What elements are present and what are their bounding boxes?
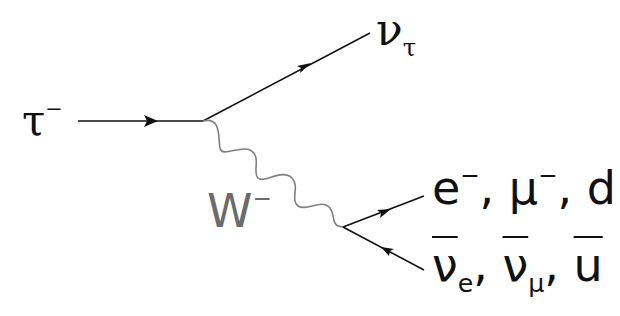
- down-quark-symbol: d: [587, 161, 616, 215]
- tau-symbol: τ: [22, 96, 45, 145]
- antifermions-label: νe, νμ, u: [432, 242, 603, 288]
- electron-charge: −: [460, 162, 479, 188]
- anti-nu-e-subscript: e: [458, 269, 474, 298]
- muon-symbol: μ: [509, 161, 538, 215]
- anti-nu-e-symbol: ν: [432, 238, 458, 292]
- w-boson-label: W−: [207, 188, 272, 234]
- separator: ,: [557, 161, 572, 215]
- nu-tau-line: [203, 33, 370, 121]
- nu-subscript: τ: [403, 34, 416, 62]
- muon-charge: −: [538, 162, 557, 188]
- tau-charge: −: [45, 97, 63, 121]
- electron-symbol: e: [432, 161, 460, 215]
- nu-symbol: ν: [376, 4, 403, 55]
- anti-up-quark-symbol: u: [574, 238, 603, 292]
- separator: ,: [480, 161, 495, 215]
- nu-tau-label: ντ: [376, 8, 416, 52]
- separator: ,: [473, 238, 488, 292]
- antifermion-arrow-icon: [381, 247, 394, 256]
- separator: ,: [544, 238, 559, 292]
- fermions-label: e−, μ−, d: [432, 165, 616, 211]
- anti-nu-mu-subscript: μ: [528, 269, 544, 298]
- w-symbol: W: [207, 184, 252, 238]
- w-charge: −: [252, 185, 271, 211]
- tau-label: τ−: [22, 100, 63, 142]
- anti-nu-mu-symbol: ν: [503, 238, 529, 292]
- nu-tau-arrow-icon: [297, 63, 311, 73]
